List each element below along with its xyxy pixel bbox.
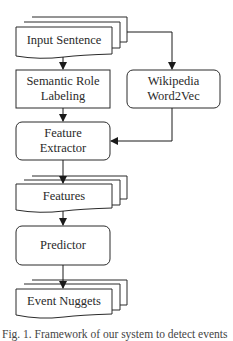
feature-extractor-label-line2: Extractor <box>16 141 110 156</box>
edge-input-to-word2vec <box>127 32 172 69</box>
srl-label-line1: Semantic Role <box>16 74 110 89</box>
feature-extractor-label-line1: Feature <box>16 126 110 141</box>
word2vec-label-line1: Wikipedia <box>127 74 220 89</box>
predictor-label: Predictor <box>16 238 110 253</box>
word2vec-label-line2: Word2Vec <box>127 89 220 104</box>
srl-label-line2: Labeling <box>16 89 110 104</box>
event-nuggets-label: Event Nuggets <box>16 294 112 309</box>
figure-caption: Fig. 1. Framework of our system to detec… <box>2 327 233 341</box>
features-label: Features <box>16 189 112 204</box>
edge-word2vec-to-extractor <box>111 108 172 141</box>
input-sentence-label: Input Sentence <box>16 33 112 48</box>
